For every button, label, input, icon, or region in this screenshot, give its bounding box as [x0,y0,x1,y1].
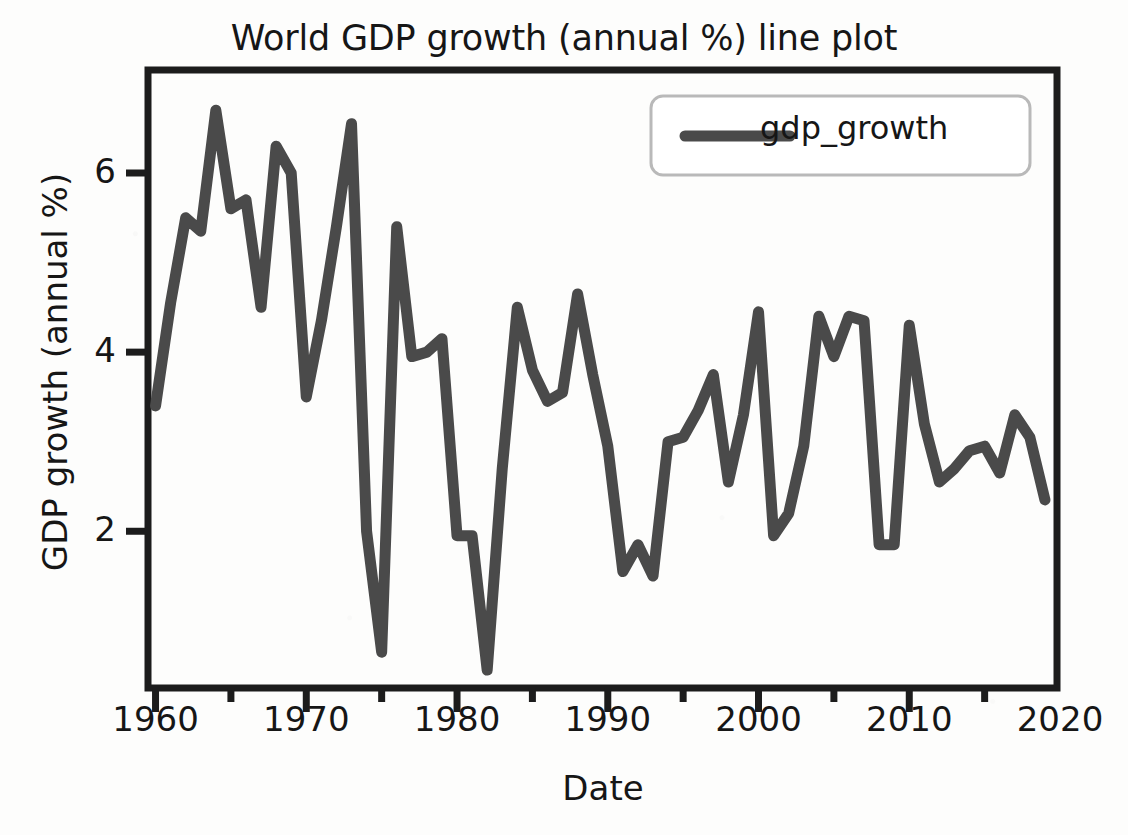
legend-entry-label: gdp_growth [760,108,948,148]
line-series-gdp-growth [156,110,1045,670]
chart-figure: World GDP growth (annual %) line plot GD… [0,0,1128,835]
plot-area [0,0,1128,835]
